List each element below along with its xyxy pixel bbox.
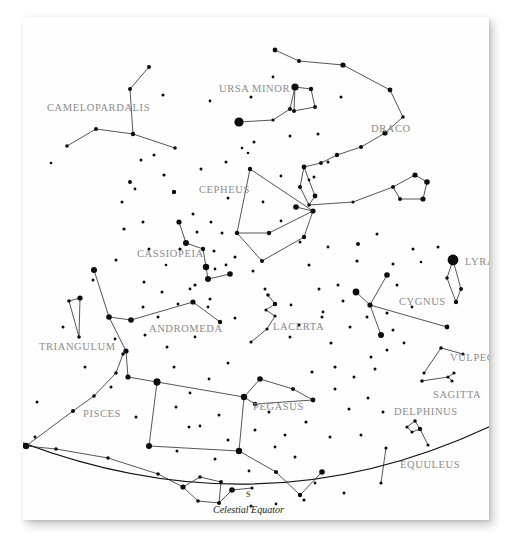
star-draco [401,115,405,119]
star-pisces [121,352,125,356]
constellation-line-sagitta [422,377,448,381]
constellation-label-ursa-minor[interactable]: URSA MINOR [219,83,290,94]
constellation-label-triangulum[interactable]: TRIANGULUM [39,341,116,352]
star-delphinus [418,427,422,431]
constellation-label-pisces[interactable]: PISCES [83,408,121,419]
constellation-line-pegasus [276,472,300,495]
constellation-line-draco [299,61,343,65]
constellation-label-draco[interactable]: DRACO [371,123,411,134]
field-star [177,303,180,306]
south-marker-label: S [246,490,250,499]
star-andromeda [91,267,97,273]
constellation-line-ursa-minor [294,107,315,111]
constellation-label-lacerta[interactable]: LACERTA [273,321,324,332]
field-star [376,233,379,236]
field-star [382,411,385,414]
field-star [322,311,325,314]
field-star [264,288,267,291]
star-sagitta [420,379,424,383]
constellation-line-cepheus [262,237,304,261]
constellation-label-vulpecula[interactable]: VULPECULA [450,352,489,363]
constellation-label-cassiopeia[interactable]: CASSIOPEIA [137,248,204,259]
field-star [302,498,305,501]
celestial-equator-label: Celestial Equator [213,504,284,515]
field-star [313,176,316,179]
star-delphinus [426,443,429,446]
field-star [308,264,311,267]
field-star [333,365,336,368]
field-star [290,304,293,307]
constellation-line-draco [300,187,309,205]
field-star [437,246,440,249]
field-star [92,279,95,282]
constellation-line-camelopardalis [67,129,96,146]
star-pisces [106,456,110,460]
star-cassiopeia [176,219,181,224]
star-camelopardalis [65,144,69,148]
field-star [262,201,265,204]
constellation-line-andromeda [126,351,128,377]
constellation-label-cepheus[interactable]: CEPHEUS [199,184,250,195]
star-lacerta [273,314,276,317]
field-star [196,231,199,234]
constellation-line-draco [304,163,321,167]
field-star [386,312,389,315]
field-star [121,201,124,204]
constellation-label-cygnus[interactable]: CYGNUS [399,296,446,307]
star-draco [391,185,395,189]
field-star [225,161,228,164]
field-star [386,349,389,352]
constellation-line-draco [337,147,361,155]
constellation-line-pisces [108,458,158,474]
field-star [50,162,53,165]
star-andromeda [106,314,112,320]
star-triangulum [67,299,71,303]
constellation-stars-group [23,48,465,505]
constellation-line-andromeda [94,270,109,317]
star-draco [298,185,302,189]
constellation-line-draco [390,90,403,117]
field-star [353,376,356,379]
constellation-line-ursa-minor [239,120,273,122]
constellation-label-sagitta[interactable]: SAGITTA [433,389,481,400]
constellation-line-pegasus [260,379,293,389]
star-cepheus [310,208,315,213]
constellation-line-pegasus [157,382,244,397]
field-star [200,168,203,171]
field-star [213,250,216,253]
constellation-label-pegasus[interactable]: PEGASUS [253,401,304,412]
field-star [234,317,237,320]
star-cepheus [302,235,306,239]
field-star [349,326,352,329]
constellation-label-lyra[interactable]: LYRA [465,256,489,267]
field-star [367,397,370,400]
constellation-label-andromeda[interactable]: ANDROMEDA [149,323,223,334]
star-pisces [114,371,118,375]
star-camelopardalis [131,132,135,136]
field-star [348,408,351,411]
star-ursa-minor [292,109,296,113]
constellation-line-cepheus [237,169,250,233]
annotations-group: SCelestial Equator [213,490,284,515]
field-star [308,179,311,182]
field-star [392,329,395,332]
field-star [84,366,87,369]
field-star [209,298,212,301]
constellation-label-delphinus[interactable]: DELPHINUS [394,406,458,417]
constellation-label-equuleus[interactable]: EQUULEUS [400,459,460,470]
star-pegasus [291,387,295,391]
star-cassiopeia [203,264,209,270]
constellation-line-ursa-minor [311,89,315,107]
star-draco [297,59,301,63]
constellation-line-pegasus [239,397,244,451]
field-star [250,96,253,99]
constellation-line-andromeda [131,302,193,320]
star-equuleus [379,481,382,484]
constellation-label-camelopardalis[interactable]: CAMELOPARDALIS [47,102,150,113]
constellation-line-pegasus [293,389,313,400]
field-star [214,268,217,271]
field-star [214,458,217,461]
constellation-line-cygnus [370,275,387,305]
field-star [304,420,307,423]
star-ursa-minor [313,105,317,109]
